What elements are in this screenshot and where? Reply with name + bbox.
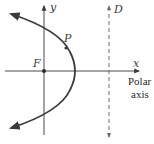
directrix-label: D bbox=[113, 3, 123, 16]
polar-axis-label-line1: Polar bbox=[128, 75, 152, 87]
x-axis-label: x bbox=[133, 57, 140, 70]
y-axis-label: y bbox=[49, 1, 57, 14]
point-p-label: P bbox=[63, 32, 72, 45]
parabola-diagram: y x F P D Polar axis bbox=[0, 0, 154, 144]
point-p bbox=[64, 46, 67, 49]
focus-label: F bbox=[32, 57, 41, 70]
focus-point bbox=[42, 69, 46, 73]
polar-axis-label-line2: axis bbox=[131, 88, 149, 100]
